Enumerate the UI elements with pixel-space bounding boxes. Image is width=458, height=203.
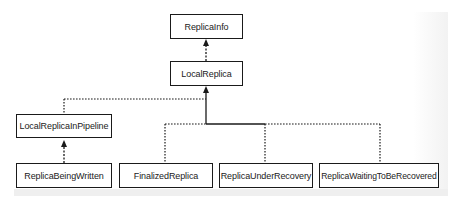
- node-label: FinalizedReplica: [134, 171, 198, 181]
- edge-localreplica-to-replicainfo: [203, 39, 209, 61]
- node-local-replica: LocalReplica: [170, 61, 243, 86]
- arrowhead-icon: [203, 39, 209, 46]
- node-finalized-replica: FinalizedReplica: [119, 163, 213, 188]
- node-label: LocalReplica: [181, 69, 231, 79]
- node-replica-being-written: ReplicaBeingWritten: [16, 163, 112, 188]
- node-label: ReplicaBeingWritten: [24, 171, 103, 181]
- arrowhead-icon: [61, 140, 67, 147]
- arrowhead-icon: [203, 86, 209, 93]
- node-replica-under-recovery: ReplicaUnderRecovery: [219, 163, 313, 188]
- node-label: ReplicaUnderRecovery: [221, 171, 312, 181]
- node-replica-waiting-to-be-recovered: ReplicaWaitingToBeRecovered: [319, 163, 439, 188]
- edge-replicabeingwritten-to-pipeline: [61, 140, 67, 163]
- node-replica-info: ReplicaInfo: [170, 14, 243, 39]
- node-label: ReplicaInfo: [185, 22, 229, 32]
- node-local-replica-in-pipeline: LocalReplicaInPipeline: [16, 114, 112, 138]
- node-label: ReplicaWaitingToBeRecovered: [321, 171, 436, 181]
- node-label: LocalReplicaInPipeline: [20, 121, 109, 131]
